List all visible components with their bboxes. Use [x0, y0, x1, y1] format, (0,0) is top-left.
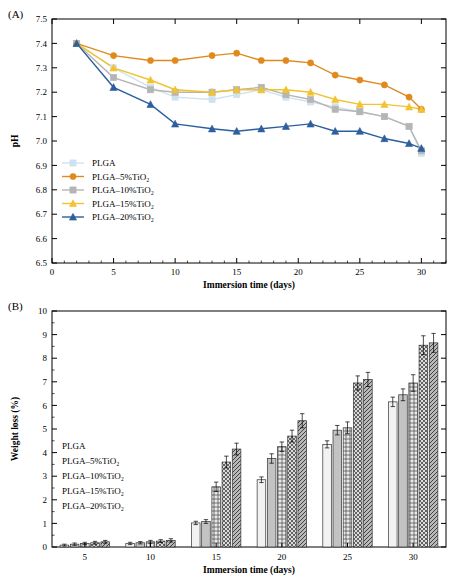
svg-text:6.8: 6.8 — [36, 185, 48, 195]
svg-text:PLGA–20%TiO₂: PLGA–20%TiO₂ — [92, 212, 154, 222]
svg-text:25: 25 — [343, 552, 353, 562]
svg-text:30: 30 — [409, 552, 419, 562]
svg-text:PLGA–20%TiO₂: PLGA–20%TiO₂ — [62, 501, 124, 511]
svg-text:10: 10 — [38, 306, 48, 316]
svg-text:Immersion time (days): Immersion time (days) — [203, 565, 295, 576]
svg-text:7.4: 7.4 — [36, 39, 48, 49]
svg-text:0: 0 — [43, 542, 48, 552]
svg-text:7.1: 7.1 — [36, 112, 47, 122]
svg-text:3: 3 — [43, 471, 48, 481]
svg-text:15: 15 — [232, 267, 242, 277]
weight-loss-bar-chart: 01234567891051015202530Immersion time (d… — [0, 297, 456, 587]
svg-text:4: 4 — [43, 448, 48, 458]
svg-text:5: 5 — [43, 424, 48, 434]
svg-text:PLGA–15%TiO₂: PLGA–15%TiO₂ — [62, 486, 124, 496]
svg-text:PLGA–10%TiO₂: PLGA–10%TiO₂ — [62, 471, 124, 481]
svg-text:8: 8 — [43, 353, 48, 363]
svg-text:0: 0 — [50, 267, 55, 277]
svg-text:5: 5 — [83, 552, 88, 562]
svg-text:1: 1 — [43, 519, 48, 529]
svg-text:7.3: 7.3 — [36, 63, 48, 73]
svg-text:25: 25 — [355, 267, 365, 277]
svg-text:7: 7 — [43, 377, 48, 387]
svg-text:PLGA: PLGA — [92, 158, 116, 168]
svg-text:6.9: 6.9 — [36, 161, 48, 171]
svg-text:30: 30 — [417, 267, 427, 277]
svg-text:20: 20 — [294, 267, 304, 277]
svg-text:7.2: 7.2 — [36, 87, 47, 97]
svg-text:6: 6 — [43, 401, 48, 411]
svg-text:PLGA–5%TiO₂: PLGA–5%TiO₂ — [92, 172, 149, 182]
svg-text:10: 10 — [146, 552, 156, 562]
svg-text:Weight loss (%): Weight loss (%) — [10, 397, 21, 461]
svg-text:10: 10 — [171, 267, 181, 277]
svg-text:6.7: 6.7 — [36, 209, 48, 219]
svg-text:PLGA: PLGA — [62, 441, 86, 451]
svg-text:PLGA–10%TiO₂: PLGA–10%TiO₂ — [92, 185, 154, 195]
svg-text:6.5: 6.5 — [36, 258, 48, 268]
ph-line-chart: 6.56.66.76.86.97.07.17.27.37.47.50510152… — [0, 5, 456, 295]
svg-text:PLGA–15%TiO₂: PLGA–15%TiO₂ — [92, 199, 154, 209]
svg-text:Immersion time (days): Immersion time (days) — [203, 280, 295, 291]
svg-text:7.5: 7.5 — [36, 14, 48, 24]
svg-text:15: 15 — [212, 552, 222, 562]
figure-page: (A) (B) 6.56.66.76.86.97.07.17.27.37.47.… — [0, 0, 456, 587]
svg-text:5: 5 — [111, 267, 116, 277]
svg-text:pH: pH — [10, 134, 20, 147]
svg-text:2: 2 — [43, 495, 48, 505]
svg-text:7.0: 7.0 — [36, 136, 48, 146]
svg-text:PLGA–5%TiO₂: PLGA–5%TiO₂ — [62, 456, 119, 466]
svg-text:20: 20 — [277, 552, 287, 562]
svg-text:9: 9 — [43, 330, 48, 340]
svg-text:6.6: 6.6 — [36, 234, 48, 244]
